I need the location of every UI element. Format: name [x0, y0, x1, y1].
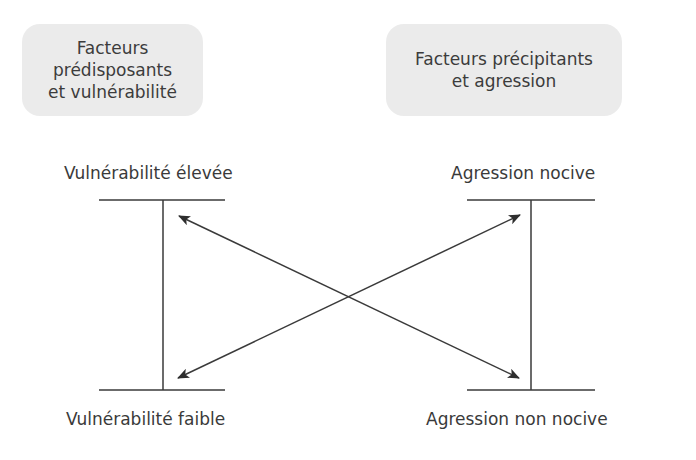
right-scale-bar	[467, 200, 595, 390]
diathesis-stress-diagram	[0, 0, 696, 460]
